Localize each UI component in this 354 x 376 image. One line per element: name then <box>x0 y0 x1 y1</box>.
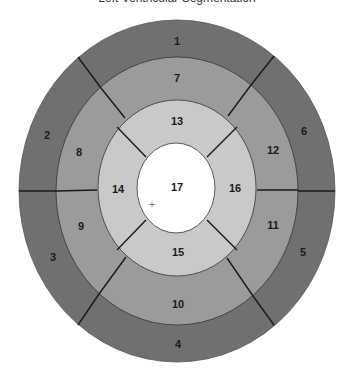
segment-14-label: 14 <box>112 183 125 195</box>
segment-10-label: 10 <box>172 298 184 310</box>
bullseye-diagram: 1 2 3 4 5 6 7 8 9 10 11 12 13 14 15 16 1… <box>0 0 354 376</box>
segment-16-label: 16 <box>229 182 241 194</box>
segment-8-label: 8 <box>76 146 82 158</box>
segment-9-label: 9 <box>78 220 84 232</box>
segment-1-label: 1 <box>174 35 180 47</box>
segment-4-label: 4 <box>175 338 182 350</box>
segment-5-label: 5 <box>300 246 306 258</box>
crosshair-marker: + <box>149 198 155 210</box>
segment-6-label: 6 <box>301 125 307 137</box>
segment-12-label: 12 <box>267 144 279 156</box>
segment-15-label: 15 <box>172 246 184 258</box>
segment-17-label: 17 <box>171 181 183 193</box>
segment-7-label: 7 <box>174 72 180 84</box>
segment-2-label: 2 <box>44 129 50 141</box>
segment-13-label: 13 <box>171 115 183 127</box>
segment-11-label: 11 <box>267 219 279 231</box>
segment-3-label: 3 <box>50 251 56 263</box>
